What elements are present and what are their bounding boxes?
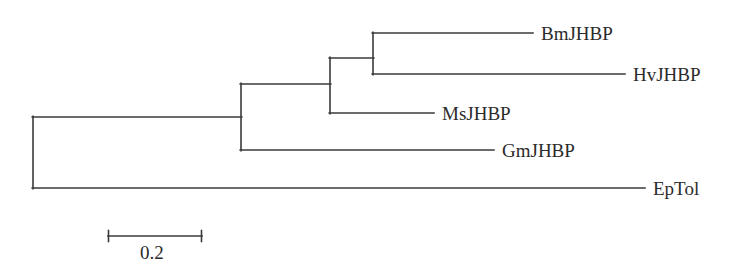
tree-branch-lines — [32, 32, 645, 189]
tip-label-hvjhbp: HvJHBP — [633, 65, 701, 84]
phylogenetic-tree-figure: BmJHBP HvJHBP MsJHBP GmJHBP EpTol 0.2 — [0, 0, 742, 279]
scale-bar-label: 0.2 — [140, 243, 164, 262]
tip-label-bmjhbp: BmJHBP — [541, 24, 613, 43]
tip-label-msjhbp: MsJHBP — [442, 104, 511, 123]
tree-diagram — [0, 0, 742, 279]
tip-label-eptol: EpTol — [653, 179, 699, 198]
scale-bar — [108, 231, 202, 242]
tip-label-gmjhbp: GmJHBP — [502, 141, 575, 160]
